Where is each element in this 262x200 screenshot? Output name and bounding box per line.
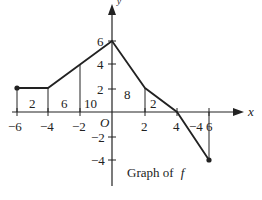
x-axis-label: x xyxy=(247,104,254,119)
x-tick-label-neg6: −6 xyxy=(8,119,22,134)
endpoint-left xyxy=(14,85,19,90)
x-tick-label-2: 2 xyxy=(141,119,148,134)
graph-caption: Graph of f xyxy=(127,165,187,180)
y-tick-label-neg2: −2 xyxy=(91,130,105,145)
graph-caption-prefix: Graph of xyxy=(127,165,174,180)
graph-of-f-line xyxy=(17,41,209,160)
area-label-1: 2 xyxy=(29,96,36,111)
x-tick-label-4: 4 xyxy=(173,119,180,134)
y-axis-label: y xyxy=(116,0,121,6)
graph-of-f-figure: x y 6 4 2 −2 −4 −6 −4 −2 O 2 4 6 xyxy=(0,0,262,200)
area-label-3: 10 xyxy=(84,96,97,111)
area-label-5: 2 xyxy=(150,96,157,111)
area-label-2: 6 xyxy=(61,96,68,111)
y-tick-label-neg4: −4 xyxy=(91,153,105,168)
x-tick-label-neg4: −4 xyxy=(40,119,54,134)
y-axis: y xyxy=(108,0,121,186)
y-tick-label-2: 2 xyxy=(97,82,104,97)
area-label-4: 8 xyxy=(124,87,131,102)
endpoint-right xyxy=(206,157,211,162)
area-label-6: −4 xyxy=(189,119,203,134)
x-axis-arrow-icon xyxy=(233,108,244,116)
graph-caption-var: f xyxy=(181,165,187,180)
y-tick-label-4: 4 xyxy=(97,57,104,72)
x-tick-label-neg2: −2 xyxy=(72,119,86,134)
origin-label: O xyxy=(100,115,110,130)
y-axis-arrow-icon xyxy=(108,4,116,15)
